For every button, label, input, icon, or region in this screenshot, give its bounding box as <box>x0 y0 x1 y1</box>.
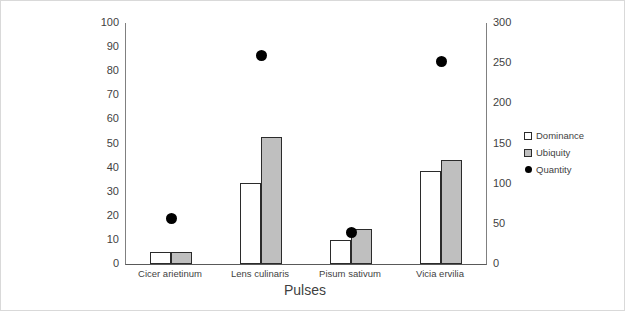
category-label-0: Cicer arietinum <box>125 267 215 280</box>
left-axis-tick-label: 80 <box>83 65 119 76</box>
data-point-quantity-3 <box>436 56 447 67</box>
left-axis-tick-label: 50 <box>83 138 119 149</box>
category-label-1: Lens culinaris <box>215 267 305 280</box>
legend-label: Dominance <box>536 130 584 141</box>
bar-dominance-3 <box>420 171 441 264</box>
legend-label: Quantity <box>536 164 571 175</box>
plot-area <box>125 23 487 265</box>
bar-dominance-0 <box>150 252 171 264</box>
right-axis-tick-label: 100 <box>493 178 533 189</box>
left-axis-tick-label: 30 <box>83 186 119 197</box>
left-axis-tick-label: 100 <box>83 17 119 28</box>
bar-ubiquity-1 <box>261 137 282 264</box>
x-axis-title: Pulses <box>125 282 485 298</box>
black-dot-icon <box>525 166 532 173</box>
gray-square-icon <box>524 149 532 157</box>
white-square-icon <box>524 132 532 140</box>
legend-label: Ubiquity <box>536 147 570 158</box>
right-axis-tick-label: 250 <box>493 57 533 68</box>
right-axis-tick-label: 0 <box>493 258 533 269</box>
legend-item-ubiquity[interactable]: Ubiquity <box>524 144 620 161</box>
bar-dominance-1 <box>240 183 261 264</box>
bar-dominance-2 <box>330 240 351 264</box>
category-axis-labels: Cicer arietinumLens culinarisPisum sativ… <box>125 267 485 283</box>
chart-legend: DominanceUbiquityQuantity <box>524 127 620 178</box>
bar-ubiquity-3 <box>441 160 462 264</box>
right-axis-tick-label: 50 <box>493 218 533 229</box>
data-point-quantity-0 <box>166 213 177 224</box>
left-axis-tick-label: 70 <box>83 89 119 100</box>
bar-ubiquity-0 <box>171 252 192 264</box>
chart-figure: 0102030405060708090100 05010015020025030… <box>0 0 625 311</box>
left-axis-tick-label: 0 <box>83 258 119 269</box>
left-axis-tick-label: 60 <box>83 113 119 124</box>
data-point-quantity-1 <box>256 50 267 61</box>
legend-item-dominance[interactable]: Dominance <box>524 127 620 144</box>
category-label-3: Vicia ervilia <box>395 267 485 280</box>
right-axis-tick-label: 200 <box>493 97 533 108</box>
left-axis: 0102030405060708090100 <box>77 23 119 264</box>
data-point-quantity-2 <box>346 227 357 238</box>
right-axis-tick-label: 300 <box>493 17 533 28</box>
left-axis-tick-label: 90 <box>83 41 119 52</box>
category-label-2: Pisum sativum <box>305 267 395 280</box>
left-axis-tick-label: 20 <box>83 210 119 221</box>
left-axis-tick-label: 40 <box>83 162 119 173</box>
left-axis-tick-label: 10 <box>83 234 119 245</box>
legend-item-quantity[interactable]: Quantity <box>524 161 620 178</box>
